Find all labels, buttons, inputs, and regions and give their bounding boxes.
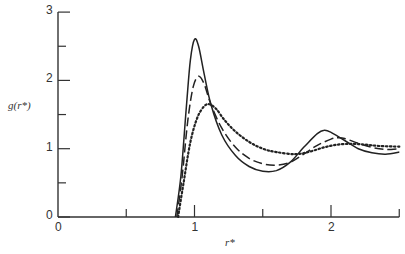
series-solid-line [175,39,399,217]
y-tick-label: 2 [46,71,53,85]
series-dotted-line [178,104,399,217]
y-tick-label: 1 [46,140,53,154]
y-tick-label: 0 [46,208,53,222]
plot-lines [175,39,399,217]
x-axis-label: r* [225,236,235,248]
y-axis-label: g(r*) [8,99,31,111]
chart-canvas [0,0,405,254]
series-dashed-line [177,76,399,217]
y-tick-label: 3 [46,3,53,17]
x-tick-label: 0 [55,220,62,234]
x-tick-label: 2 [328,220,335,234]
axes [58,12,399,217]
x-tick-label: 1 [192,220,199,234]
